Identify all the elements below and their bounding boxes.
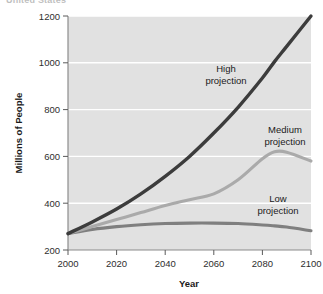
- population-projection-chart: 200020202040206020802100 200400600800100…: [0, 0, 323, 294]
- x-axis-tick-labels: 200020202040206020802100: [57, 258, 321, 269]
- x-tick-label: 2080: [252, 258, 273, 269]
- y-axis-title: Millions of People: [13, 93, 24, 174]
- annotation-medium-line2: projection: [264, 136, 305, 147]
- y-tick-label: 800: [44, 104, 60, 115]
- x-tick-label: 2100: [300, 258, 321, 269]
- y-tick-label: 1200: [39, 11, 60, 22]
- y-axis-ticks: [63, 16, 68, 250]
- x-tick-label: 2020: [106, 258, 127, 269]
- y-tick-label: 1000: [39, 57, 60, 68]
- x-tick-label: 2000: [57, 258, 78, 269]
- x-axis-title: Year: [179, 278, 199, 289]
- x-tick-label: 2040: [155, 258, 176, 269]
- y-tick-label: 200: [44, 245, 60, 256]
- annotation-medium-line1: Medium: [268, 124, 302, 135]
- chart-canvas: 200020202040206020802100 200400600800100…: [0, 0, 323, 294]
- x-axis-ticks: [68, 250, 311, 255]
- y-tick-label: 400: [44, 198, 60, 209]
- annotation-medium-projection: Medium projection: [264, 124, 305, 147]
- annotation-low-line2: projection: [257, 205, 298, 216]
- y-tick-label: 600: [44, 151, 60, 162]
- x-tick-label: 2060: [203, 258, 224, 269]
- annotation-high-line2: projection: [205, 75, 246, 86]
- annotation-high-line1: High: [216, 63, 236, 74]
- annotation-low-line1: Low: [269, 193, 287, 204]
- y-axis-tick-labels: 20040060080010001200: [39, 11, 60, 256]
